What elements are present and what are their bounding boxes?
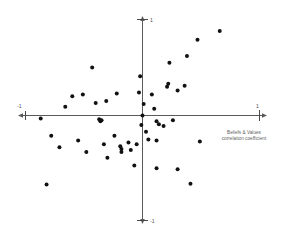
scatter-point [155, 138, 159, 142]
scatter-point [218, 29, 222, 33]
scatter-point [63, 105, 67, 109]
scatter-point [126, 140, 130, 144]
x-axis-caption: Beliefs & Values correlation coefficient [206, 130, 282, 142]
scatter-point [135, 142, 139, 146]
y-axis-top-arrow-icon [140, 16, 145, 21]
scatter-point [157, 122, 161, 126]
scatter-point [70, 94, 74, 98]
scatter-point [171, 118, 175, 122]
scatter-point [150, 92, 154, 96]
axes-group: 1 -1 -1 1 [17, 16, 267, 224]
scatter-point [142, 102, 146, 106]
scatter-point [132, 163, 136, 167]
x-axis-right-tick-label: 1 [256, 103, 259, 109]
scatter-point [94, 101, 98, 105]
scatter-point [198, 139, 202, 143]
x-axis-caption-line-2: correlation coefficient [206, 136, 282, 142]
x-axis-left-arrow-icon [18, 113, 23, 118]
data-points-layer [39, 29, 222, 187]
scatter-point [176, 89, 180, 93]
y-axis-bottom-tick-label: -1 [150, 218, 155, 224]
scatter-point [90, 66, 94, 70]
scatter-point [119, 150, 123, 154]
scatter-point [39, 116, 43, 120]
scatter-point [176, 167, 180, 171]
scatter-point [195, 38, 199, 42]
scatter-point [104, 99, 108, 103]
scatter-point [141, 114, 145, 118]
y-axis-top-tick-label: 1 [150, 17, 153, 23]
plot-canvas: 1 -1 -1 1 [0, 0, 291, 246]
scatter-point [115, 91, 119, 95]
scatter-point [167, 61, 171, 65]
scatter-point [57, 145, 61, 149]
scatter-point [45, 183, 49, 187]
x-axis-left-tick-label: -1 [17, 103, 22, 109]
scatter-point [102, 142, 106, 146]
scatter-point [183, 84, 187, 88]
scatter-point [162, 124, 166, 128]
scatter-point [112, 134, 116, 138]
scatter-point [76, 138, 80, 142]
scatter-point [49, 134, 53, 138]
x-axis-right-arrow-icon [262, 113, 267, 118]
scatter-point [146, 138, 150, 142]
scatter-point [129, 148, 133, 152]
scatter-point [139, 123, 143, 127]
y-axis-bottom-arrow-icon [140, 219, 145, 224]
scatter-point [155, 166, 159, 170]
scatter-point [105, 156, 109, 160]
scatter-point [137, 90, 141, 94]
scatter-point [100, 118, 104, 122]
scatter-point [81, 92, 85, 96]
scatter-point [185, 54, 189, 58]
scatter-point [144, 130, 148, 134]
scatter-point [152, 107, 156, 111]
scatter-point [188, 182, 192, 186]
scatter-point [138, 74, 142, 78]
scatter-plot-figure: 1 -1 -1 1 Beliefs & Values correlation c… [0, 0, 291, 246]
scatter-point [84, 150, 88, 154]
scatter-point [166, 82, 170, 86]
